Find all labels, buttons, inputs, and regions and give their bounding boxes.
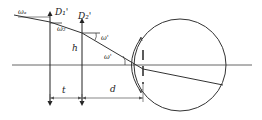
light-ray: [14, 15, 223, 85]
label-d2: D₂': [78, 12, 91, 21]
label-omega-prime-top: ω': [101, 35, 109, 42]
label-omega-a: ωₐ: [18, 9, 26, 16]
dim-arrow-d-left-icon: [82, 97, 86, 100]
label-d: d: [110, 85, 116, 94]
dim-arrow-d-right-icon: [139, 97, 143, 100]
label-d1: D₁': [55, 8, 68, 17]
dim-arrow-t-left-icon: [50, 97, 54, 100]
dim-arrow-t-right-icon: [78, 97, 82, 100]
label-h: h: [72, 44, 78, 53]
angle-arc-omega-prime-top: [95, 33, 96, 40]
optical-eye-diagram: [0, 0, 262, 120]
label-t: t: [62, 86, 66, 95]
label-omega-prime-axis: ω': [104, 54, 112, 61]
lens-d1-arrow-up-icon: [48, 11, 53, 16]
label-omega-b: ω₂: [57, 26, 66, 33]
